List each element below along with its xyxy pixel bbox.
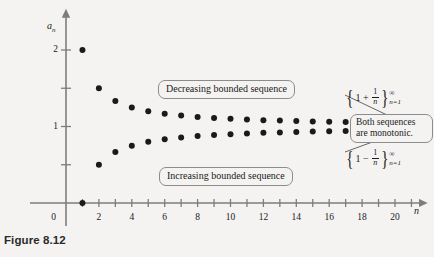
y-axis-label: an xyxy=(47,20,56,34)
figure-container: an n 2468101214161820120 Decreasing boun… xyxy=(0,0,434,257)
data-point xyxy=(145,108,151,114)
y-tick-label-2: 2 xyxy=(36,44,58,54)
formula-lower-sequence: { 1 − 1 n } ∞ n=1 xyxy=(345,149,401,167)
data-point xyxy=(326,128,332,134)
data-point xyxy=(293,118,299,124)
data-point xyxy=(112,149,118,155)
data-point xyxy=(228,131,234,137)
y-axis-label-sub: n xyxy=(52,26,56,34)
data-point xyxy=(112,98,118,104)
data-point xyxy=(195,114,201,120)
formula-lower-fraction: 1 n xyxy=(372,149,379,167)
figure-caption: Figure 8.12 xyxy=(4,234,66,246)
formula-upper-subscript-eq: =1 xyxy=(393,98,401,106)
data-point xyxy=(260,117,266,123)
formula-upper-superscript: ∞ xyxy=(389,89,401,97)
formula-upper-denominator: n xyxy=(373,98,377,106)
data-point xyxy=(343,128,349,134)
data-point xyxy=(129,143,135,149)
data-point xyxy=(228,116,234,122)
data-point xyxy=(326,119,332,125)
data-point xyxy=(277,129,283,135)
data-point xyxy=(195,133,201,139)
formula-upper-lead: 1 + xyxy=(356,92,369,103)
data-point xyxy=(129,104,135,110)
data-point xyxy=(244,130,250,136)
formula-upper-subscript: n=1 xyxy=(389,99,401,106)
data-point xyxy=(96,162,102,168)
formula-lower-subscript-eq: =1 xyxy=(393,159,401,167)
data-point xyxy=(79,47,85,53)
formula-lower-subscript: n=1 xyxy=(389,160,401,167)
x-tick-label-20: 20 xyxy=(375,212,415,222)
formula-lower-lead: 1 − xyxy=(356,153,369,164)
data-point xyxy=(211,132,217,138)
data-point xyxy=(162,136,168,142)
formula-upper-numerator: 1 xyxy=(373,88,377,96)
callout-decreasing-bounded-sequence: Decreasing bounded sequence xyxy=(158,80,295,99)
formula-lower-numerator: 1 xyxy=(373,149,377,157)
data-point xyxy=(96,85,102,91)
data-point xyxy=(145,139,151,145)
data-point xyxy=(343,119,349,125)
formula-lower-limits: ∞ n=1 xyxy=(389,150,401,167)
y-tick-label-1: 1 xyxy=(36,121,58,131)
data-point xyxy=(244,117,250,123)
callout-increasing-bounded-sequence: Increasing bounded sequence xyxy=(159,167,293,186)
data-point xyxy=(178,134,184,140)
data-point xyxy=(260,130,266,136)
data-point xyxy=(293,129,299,135)
data-point xyxy=(310,129,316,135)
formula-upper-sequence: { 1 + 1 n } ∞ n=1 xyxy=(345,88,401,106)
data-point xyxy=(162,111,168,117)
data-point xyxy=(277,118,283,124)
data-point xyxy=(310,118,316,124)
origin-label: 0 xyxy=(34,212,56,222)
data-point xyxy=(178,113,184,119)
formula-lower-superscript: ∞ xyxy=(389,150,401,158)
data-point xyxy=(79,200,85,206)
formula-upper-fraction: 1 n xyxy=(372,88,379,106)
data-point xyxy=(211,115,217,121)
callout-both-sequences-monotonic: Both sequences are monotonic. xyxy=(350,114,433,143)
formula-upper-limits: ∞ n=1 xyxy=(389,89,401,106)
formula-lower-denominator: n xyxy=(373,159,377,167)
